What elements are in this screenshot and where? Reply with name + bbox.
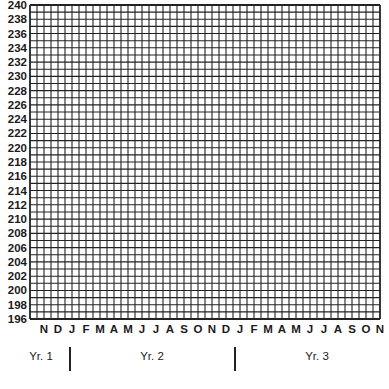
y-tick-label: 218 — [0, 156, 27, 168]
x-tick-label: M — [289, 323, 303, 335]
x-tick-label: M — [121, 323, 135, 335]
y-tick-label: 200 — [0, 284, 27, 296]
x-tick-label: J — [149, 323, 163, 335]
x-tick-label: D — [51, 323, 65, 335]
x-tick-label: D — [219, 323, 233, 335]
y-tick-label: 226 — [0, 99, 27, 111]
year-2-label: Yr. 2 — [140, 350, 164, 362]
x-tick-label: J — [317, 323, 331, 335]
x-tick-label: A — [275, 323, 289, 335]
x-tick-label: J — [135, 323, 149, 335]
x-tick-label: M — [261, 323, 275, 335]
y-tick-label: 212 — [0, 199, 27, 211]
y-tick-label: 208 — [0, 227, 27, 239]
y-tick-label: 230 — [0, 70, 27, 82]
x-tick-label: J — [65, 323, 79, 335]
y-tick-label: 222 — [0, 127, 27, 139]
y-tick-label: 240 — [0, 0, 27, 11]
x-tick-label: J — [233, 323, 247, 335]
x-tick-label: A — [331, 323, 345, 335]
y-tick-label: 214 — [0, 185, 27, 197]
x-tick-label: A — [107, 323, 121, 335]
y-tick-label: 206 — [0, 242, 27, 254]
x-tick-label: F — [79, 323, 93, 335]
x-tick-label: A — [163, 323, 177, 335]
x-tick-label: O — [359, 323, 373, 335]
y-tick-label: 210 — [0, 213, 27, 225]
y-tick-label: 202 — [0, 270, 27, 282]
x-tick-label: O — [191, 323, 205, 335]
x-tick-label: M — [93, 323, 107, 335]
x-tick-label: F — [247, 323, 261, 335]
x-tick-label: S — [345, 323, 359, 335]
chart-area: 2402382362342322302282262242222202182162… — [0, 0, 389, 389]
y-tick-label: 196 — [0, 313, 27, 325]
x-tick-label: N — [205, 323, 219, 335]
y-tick-label: 198 — [0, 299, 27, 311]
y-tick-label: 216 — [0, 170, 27, 182]
x-tick-label: N — [373, 323, 387, 335]
year-divider-1 — [69, 347, 71, 371]
y-tick-label: 220 — [0, 142, 27, 154]
year-divider-2 — [234, 347, 236, 371]
y-tick-label: 224 — [0, 113, 27, 125]
y-tick-label: 228 — [0, 85, 27, 97]
x-tick-label: S — [177, 323, 191, 335]
y-tick-label: 238 — [0, 13, 27, 25]
y-tick-label: 236 — [0, 28, 27, 40]
y-tick-label: 204 — [0, 256, 27, 268]
year-3-label: Yr. 3 — [305, 350, 329, 362]
x-tick-label: N — [37, 323, 51, 335]
x-tick-label: J — [303, 323, 317, 335]
y-tick-label: 232 — [0, 56, 27, 68]
y-tick-label: 234 — [0, 42, 27, 54]
year-1-label: Yr. 1 — [29, 350, 53, 362]
